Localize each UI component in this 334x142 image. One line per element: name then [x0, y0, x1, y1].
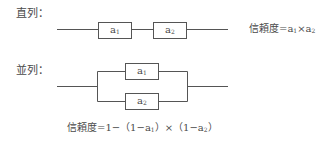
parallel-component-a2: a2 — [125, 95, 159, 109]
parallel-component-a1: a1 — [125, 65, 159, 79]
series-component-a1: a1 — [98, 24, 132, 38]
parallel-reliability-formula: 信頼度=1−（1−a1）×（1−a2） — [67, 122, 218, 136]
reliability-diagram — [0, 0, 334, 142]
series-reliability-formula: 信頼度=a1×a2 — [249, 23, 315, 37]
series-circuit — [57, 23, 228, 39]
series-component-a2: a2 — [153, 24, 187, 38]
